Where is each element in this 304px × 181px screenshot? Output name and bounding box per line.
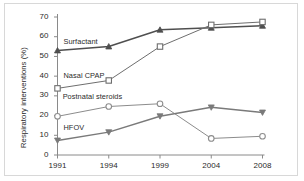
chart-container: Respiratory interventions (%) 0102030405… xyxy=(0,0,304,181)
series-line xyxy=(58,107,263,140)
data-point-marker xyxy=(106,78,111,83)
data-point-marker xyxy=(157,101,163,107)
data-point-marker xyxy=(55,86,60,91)
data-point-marker xyxy=(260,133,266,139)
data-point-marker xyxy=(157,44,162,49)
data-point-marker xyxy=(209,22,214,27)
data-point-marker xyxy=(55,114,61,120)
plot-area xyxy=(0,0,304,181)
data-point-marker xyxy=(106,104,112,110)
data-point-marker xyxy=(260,19,265,24)
data-point-marker xyxy=(208,136,214,142)
